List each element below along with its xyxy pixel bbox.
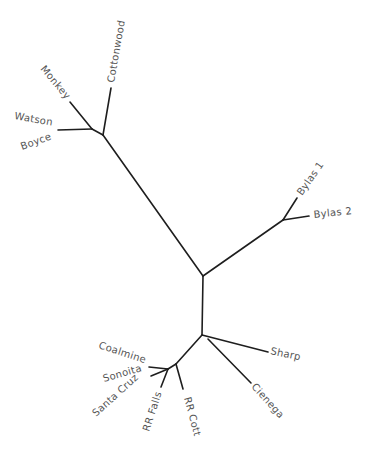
taxon-label-boyce: Boyce	[19, 131, 53, 152]
branch-rr-cott	[176, 364, 183, 389]
branch-center-to-upper-clade	[103, 135, 203, 276]
taxon-label-rr-falls: RR Falls	[140, 390, 163, 433]
taxon-label-rr-cott: RR Cott	[182, 396, 203, 438]
branch-watson-boyce	[58, 129, 92, 130]
taxon-label-cottonwood: Cottonwood	[105, 19, 127, 83]
branch-cottonwood	[103, 88, 111, 135]
branch-bylas1	[283, 198, 297, 220]
branch-center-to-lower-clade	[202, 276, 203, 335]
branch-bylas2	[283, 216, 309, 220]
taxon-label-coalmine: Coalmine	[97, 339, 147, 365]
taxon-label-sharp: Sharp	[270, 345, 302, 362]
branch-internal-santa-cruz	[168, 364, 176, 369]
phylogenetic-tree: Monkey Cottonwood Watson Boyce Bylas 1 B…	[0, 0, 370, 457]
taxon-label-watson: Watson	[14, 110, 54, 128]
branch-coalmine	[149, 367, 168, 369]
taxon-label-bylas-2: Bylas 2	[313, 205, 352, 220]
branch-monkey	[70, 102, 92, 129]
taxon-label-monkey: Monkey	[38, 63, 72, 101]
branch-center-to-bylas	[203, 220, 283, 276]
branch-internal-monkey-watson	[92, 129, 103, 135]
taxon-label-cienega: Cienega	[250, 381, 287, 420]
branch-internal-lower	[176, 335, 202, 364]
taxon-label-bylas-1: Bylas 1	[295, 159, 326, 197]
